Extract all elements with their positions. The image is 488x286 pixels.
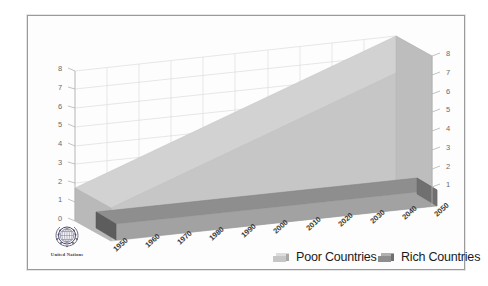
right-axis-tick-8: 8	[446, 49, 450, 58]
chart-figure: 8 7 6 5 4 3 2 1 0	[0, 0, 488, 286]
left-axis-tick-7: 7	[58, 83, 62, 92]
left-value-axis: 8 7 6 5 4 3 2 1 0	[58, 64, 75, 223]
united-nations-logo: United Nations	[40, 221, 94, 269]
legend-item-rich-countries[interactable]: Rich Countries	[378, 250, 480, 264]
left-axis-tick-6: 6	[58, 102, 62, 111]
right-axis-tick-2: 2	[446, 162, 450, 171]
left-axis-tick-4: 4	[58, 139, 62, 148]
legend-item-poor-countries[interactable]: Poor Countries	[273, 250, 377, 264]
left-axis-tick-2: 2	[58, 177, 62, 186]
right-axis-tick-1: 1	[446, 180, 450, 189]
left-axis-tick-5: 5	[58, 120, 62, 129]
right-axis-tick-6: 6	[446, 87, 450, 96]
legend-label-poor-countries: Poor Countries	[296, 250, 377, 264]
left-axis-tick-3: 3	[58, 158, 62, 167]
right-axis-tick-4: 4	[446, 124, 450, 133]
right-axis-tick-3: 3	[446, 143, 450, 152]
legend-swatch-rich-countries	[378, 253, 394, 262]
right-axis-tick-7: 7	[446, 68, 450, 77]
left-axis-tick-1: 1	[58, 195, 62, 204]
legend-swatch-poor-countries	[273, 253, 289, 262]
right-axis-tick-5: 5	[446, 105, 450, 114]
right-value-axis: 8 7 6 5 4 3 2 1	[432, 49, 450, 206]
left-axis-tick-8: 8	[58, 64, 62, 73]
united-nations-emblem-icon	[52, 221, 82, 251]
legend-label-rich-countries: Rich Countries	[401, 250, 480, 264]
united-nations-caption: United Nations	[51, 252, 83, 257]
chart-frame: 8 7 6 5 4 3 2 1 0	[27, 15, 465, 270]
